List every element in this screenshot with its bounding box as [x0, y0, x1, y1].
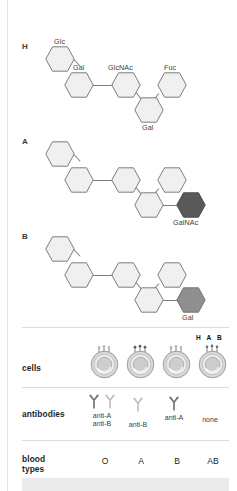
row-label-blood-line1: blood	[22, 454, 45, 464]
hexagon-gal-h	[64, 72, 94, 98]
hexagon-glcnac-h	[111, 72, 141, 98]
red-cell-type-ab	[196, 345, 230, 379]
hexagon-gal-b	[64, 262, 94, 288]
table-separator-antibodies-types	[22, 440, 229, 441]
table-separator-cells-antibodies	[22, 387, 229, 388]
hexagon-label-glcnac: GlcNAc	[108, 63, 133, 72]
hexagon-glc-b	[45, 236, 75, 262]
table-separator-top	[22, 327, 229, 328]
hexagon-gal-a	[64, 167, 94, 193]
hexagon-glcnac-a	[111, 167, 141, 193]
antibody-anti-b-col-a	[131, 397, 145, 413]
blood-type-a: A	[124, 456, 158, 466]
hexagon-label-gal: Gal	[73, 63, 85, 72]
hexagon-label-fuc: Fuc	[164, 63, 176, 72]
row-label-blood-types: blood types	[22, 455, 45, 474]
hexagon-galbranch-b	[134, 287, 164, 313]
hexagon-galbranch-h	[134, 97, 164, 123]
hexagon-fuc-h	[157, 72, 187, 98]
panel-letter-a: A	[22, 137, 28, 146]
row-label-antibodies: antibodies	[22, 410, 65, 420]
hexagon-glc-a	[45, 141, 75, 167]
left-margin-rule	[7, 0, 8, 491]
hexagon-label-gal-terminal: Gal	[182, 313, 194, 322]
panel-letter-b: B	[22, 232, 28, 241]
hab-antigen-label: H A B	[196, 334, 224, 341]
hexagon-galnac-a	[176, 192, 206, 218]
hexagon-fuc-a	[157, 167, 187, 193]
bond-gal-glcnac	[93, 85, 112, 86]
figure-root: H Glc Gal GlcNAc Fuc Gal A	[0, 0, 237, 491]
red-cell-type-o	[88, 345, 122, 379]
panel-letter-h: H	[22, 42, 28, 51]
blood-type-ab: AB	[196, 456, 230, 466]
hexagon-label-gal-branch: Gal	[142, 123, 154, 132]
hexagon-label-glc: Glc	[54, 37, 65, 46]
hexagon-galbranch-a	[134, 192, 164, 218]
red-cell-type-b	[160, 345, 194, 379]
antibody-anti-a-col-b	[167, 396, 181, 412]
bottom-caption-band	[22, 478, 229, 491]
antibody-label-none-col-ab: none	[192, 416, 228, 424]
hexagon-fuc-b	[157, 262, 187, 288]
antibody-label-anti-b-col-o: anti-B	[84, 420, 120, 428]
hexagon-glc-h	[45, 46, 75, 72]
antibody-label-anti-b-col-a: anti-B	[120, 421, 156, 429]
hexagon-glcnac-b	[111, 262, 141, 288]
row-label-cells: cells	[22, 364, 41, 374]
row-label-blood-line2: types	[22, 464, 44, 474]
hexagon-gal-terminal-b	[176, 287, 206, 313]
antibody-anti-b-col-o	[103, 394, 117, 410]
antibody-anti-a-col-o	[87, 394, 101, 410]
blood-type-b: B	[160, 456, 194, 466]
bond-b-gal-glcnac	[93, 275, 112, 276]
antibody-label-anti-a-col-b: anti-A	[156, 414, 192, 422]
hexagon-label-galnac: GalNAc	[173, 218, 198, 227]
blood-type-o: O	[88, 456, 122, 466]
red-cell-type-a	[124, 345, 158, 379]
bond-a-gal-glcnac	[93, 180, 112, 181]
